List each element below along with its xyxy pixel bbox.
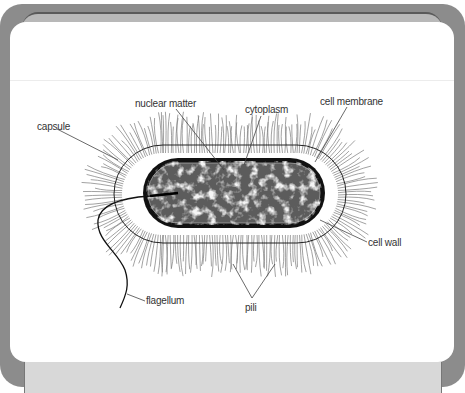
label-capsule: capsule xyxy=(37,121,70,132)
label-cytoplasm: cytoplasm xyxy=(245,104,288,115)
leader-cell-membrane xyxy=(315,107,347,162)
label-cell-membrane: cell membrane xyxy=(320,96,383,107)
leader-capsule xyxy=(57,129,118,160)
label-cell-wall: cell wall xyxy=(368,237,401,248)
leader-flagellum xyxy=(127,294,145,301)
label-pili: pili xyxy=(245,302,256,313)
bacterium-illustration xyxy=(0,0,465,393)
label-nuclear-matter: nuclear matter xyxy=(135,98,196,109)
leader-cytoplasm xyxy=(244,116,261,165)
label-flagellum: flagellum xyxy=(146,295,184,306)
